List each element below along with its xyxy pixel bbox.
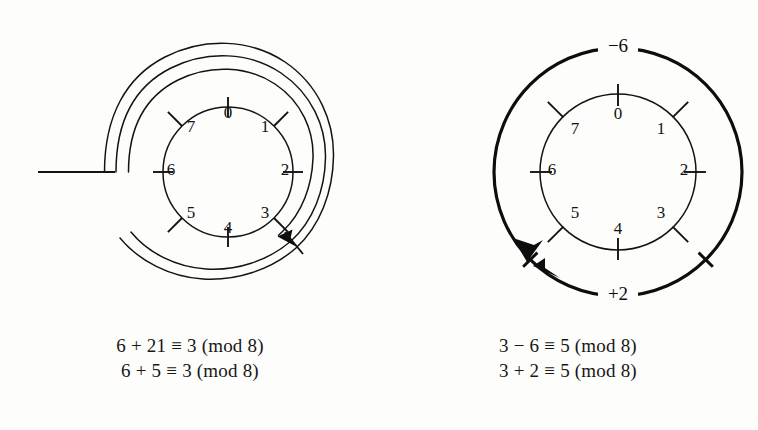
dial-label-4: 4 (614, 219, 623, 238)
right-caption-line-1: 3 − 6 ≡ 5 (mod 8) (418, 333, 718, 358)
left-caption-line-2: 6 + 5 ≡ 3 (mod 8) (40, 358, 340, 383)
right-caption-line-2: 3 + 2 ≡ 5 (mod 8) (418, 358, 718, 383)
dial-label-5: 5 (187, 203, 196, 222)
dial-tick-3 (673, 227, 689, 243)
dial-label-2: 2 (281, 160, 290, 179)
right-caption: 3 − 6 ≡ 5 (mod 8) 3 + 2 ≡ 5 (mod 8) (418, 333, 718, 383)
dial-label-2: 2 (680, 160, 689, 179)
spiral-arm-outer (105, 43, 334, 279)
dial-label-6: 6 (167, 160, 176, 179)
dial-tick-7 (548, 102, 564, 118)
arc-label-plus-two-front: +2 (608, 283, 628, 304)
minus-six-arrowhead (513, 238, 543, 262)
dial-label-1: 1 (657, 119, 666, 138)
dial-label-6: 6 (548, 160, 557, 179)
subtraction-circle-panel: −6 +2 −6 +2 (494, 35, 742, 308)
dial-label-0: 0 (614, 104, 623, 123)
left-caption-line-1: 6 + 21 ≡ 3 (mod 8) (40, 333, 340, 358)
dial-label-7: 7 (571, 119, 580, 138)
dial-label-7: 7 (187, 117, 196, 136)
mod8-clock-dial: 0 1 2 3 4 5 6 7 (153, 97, 303, 247)
spiral-path (105, 43, 334, 279)
arc-label-minus-six-front: −6 (608, 35, 628, 56)
dial-tick-3 (274, 218, 288, 232)
dial-label-3: 3 (657, 203, 666, 222)
dial-tick-5 (168, 218, 182, 232)
dial-label-1: 1 (261, 117, 270, 136)
dial-label-5: 5 (571, 203, 580, 222)
left-caption: 6 + 21 ≡ 3 (mod 8) 6 + 5 ≡ 3 (mod 8) (40, 333, 340, 383)
mod8-clock-dial: 0 1 2 3 4 5 6 7 (530, 84, 706, 260)
spiral-arm-inner (129, 69, 314, 235)
dial-label-3: 3 (261, 203, 270, 222)
dial-tick-1 (673, 102, 689, 118)
dial-label-0: 0 (224, 103, 233, 122)
addition-spiral-panel: 0 1 2 3 4 5 6 7 (38, 43, 334, 279)
modular-arithmetic-figure: 0 1 2 3 4 5 6 7 (0, 0, 758, 430)
dial-tick-1 (274, 112, 288, 126)
dial-tick-5 (548, 227, 564, 243)
dial-tick-7 (168, 112, 182, 126)
dial-numerals: 0 1 2 3 4 5 6 7 (548, 104, 689, 238)
dial-label-4: 4 (224, 218, 233, 237)
